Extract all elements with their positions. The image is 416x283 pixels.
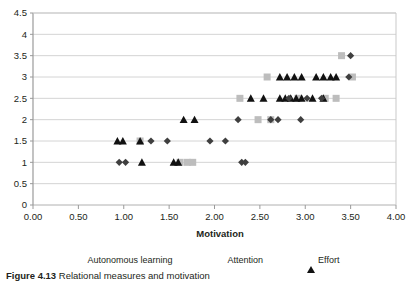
series-autonomous-learning [116,52,355,166]
y-tick-label: 2.5 [14,93,27,104]
x-tick-label: 4.00 [387,211,406,222]
data-point-diamond [122,159,129,166]
data-point-square [189,159,196,166]
data-point-square [264,74,271,81]
data-point-diamond [222,137,229,144]
y-tick-label: 3.5 [14,50,27,61]
x-tick-label: 3.00 [296,211,315,222]
x-tick-label: 1.50 [160,211,179,222]
x-tick-label: 1.00 [115,211,134,222]
x-tick-label: 0.00 [24,211,43,222]
legend-item-effort[interactable]: Effort [307,255,339,265]
y-tick-label: 4 [22,29,27,40]
data-point-diamond [297,116,304,123]
data-point-square [333,95,340,102]
legend-item-autonomous-learning[interactable]: Autonomous learning [77,255,173,265]
x-tick-label: 2.50 [251,211,270,222]
y-tick-label: 0.5 [14,178,27,189]
data-point-diamond [116,159,123,166]
x-tick-label: 0.50 [69,211,88,222]
x-axis-title: Motivation [0,228,416,239]
data-point-square [236,95,243,102]
data-point-diamond [347,52,354,59]
y-tick-label: 2 [22,114,27,125]
figure-caption: Figure 4.13 Relational measures and moti… [6,270,416,281]
series-attention [137,52,356,166]
data-point-square [338,52,345,59]
chart-legend: Autonomous learning Attention Effort [0,252,416,268]
data-point-diamond [274,116,281,123]
legend-label: Attention [228,255,264,265]
x-tick-label: 2.00 [205,211,224,222]
square-marker-icon [217,256,225,264]
y-tick-label: 3 [22,71,27,82]
chart-plot-area: 00.511.522.533.544.50.000.501.001.502.00… [0,0,416,245]
figure-container: 00.511.522.533.544.50.000.501.001.502.00… [0,0,416,283]
triangle-marker-icon [307,256,315,264]
y-tick-label: 0 [22,199,27,210]
legend-label: Autonomous learning [88,255,173,265]
y-tick-label: 1.5 [14,135,27,146]
scatter-plot: 00.511.522.533.544.50.000.501.001.502.00… [0,0,416,245]
y-tick-label: 1 [22,157,27,168]
diamond-marker-icon [77,256,85,264]
data-point-diamond [234,116,241,123]
x-tick-label: 3.50 [341,211,360,222]
data-point-square [255,116,262,123]
caption-text: Relational measures and motivation [59,270,210,281]
data-point-diamond [242,159,249,166]
data-point-diamond [147,137,154,144]
data-point-diamond [164,137,171,144]
data-point-diamond [206,137,213,144]
legend-label: Effort [318,255,339,265]
y-tick-label: 4.5 [14,7,27,18]
legend-item-attention[interactable]: Attention [217,255,264,265]
caption-number: Figure 4.13 [6,270,56,281]
